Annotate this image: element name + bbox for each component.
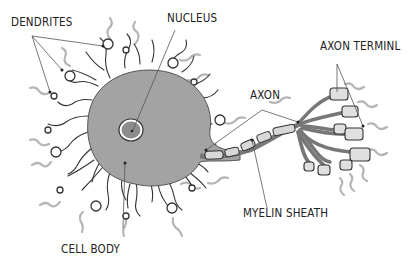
label-nucleus: NUCLEUS bbox=[167, 11, 217, 25]
myelin-sheath bbox=[205, 124, 296, 160]
cell-body bbox=[88, 70, 240, 186]
label-axon: AXON bbox=[250, 88, 280, 102]
label-dendrites: DENDRITES bbox=[11, 15, 73, 29]
label-myelin-sheath: MYELIN SHEATH bbox=[243, 206, 328, 220]
label-axon-terminal: AXON TERMINL bbox=[320, 39, 400, 53]
nucleus bbox=[119, 119, 143, 141]
label-cell-body: CELL BODY bbox=[61, 242, 120, 256]
